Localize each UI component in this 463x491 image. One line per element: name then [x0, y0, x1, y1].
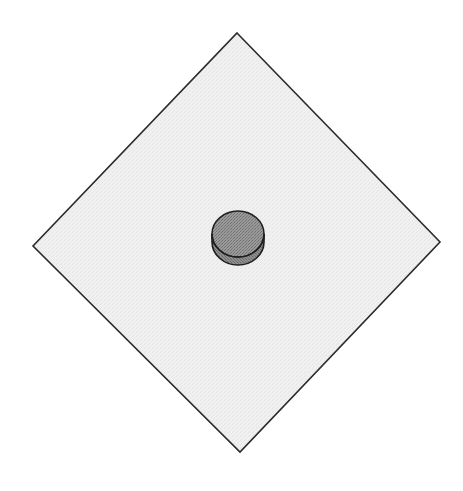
- drawing-canvas: A square plate viewed in plan but rotate…: [0, 0, 463, 491]
- figure-svg: [0, 0, 463, 491]
- cylinder-puck: [212, 211, 264, 265]
